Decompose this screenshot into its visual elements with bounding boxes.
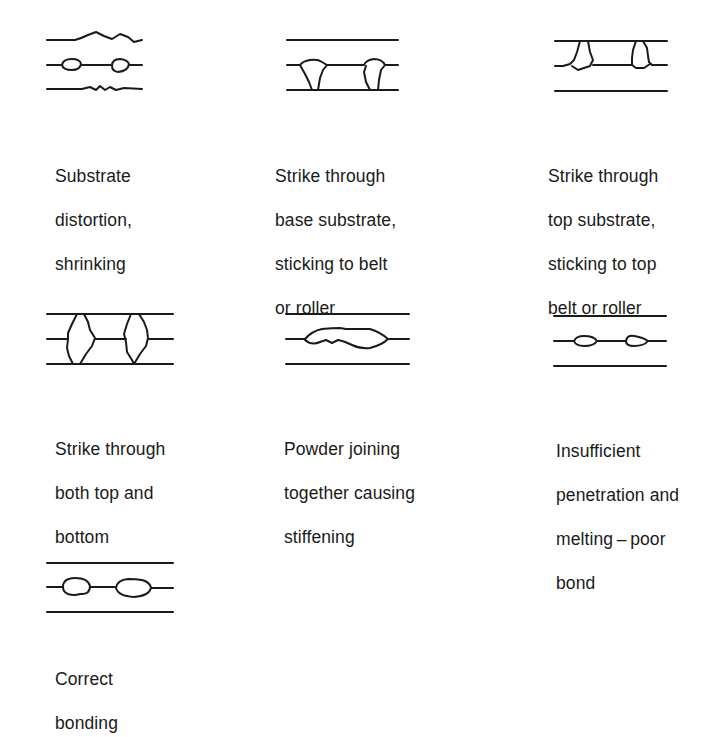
caption-line: bond: [556, 572, 679, 594]
caption-insufficient-penetration: Insufficient penetration and melting – p…: [556, 418, 679, 616]
caption-correct-bonding: Correct bonding: [55, 646, 118, 737]
panel-correct-bonding: Correct bonding: [0, 0, 240, 709]
correct-bonding-illustration: [0, 0, 240, 640]
caption-line: bonding: [55, 712, 118, 734]
caption-line: penetration and: [556, 484, 679, 506]
caption-line: Correct: [55, 668, 118, 690]
caption-line: Insufficient: [556, 440, 679, 462]
caption-line: melting – poor: [556, 528, 679, 550]
